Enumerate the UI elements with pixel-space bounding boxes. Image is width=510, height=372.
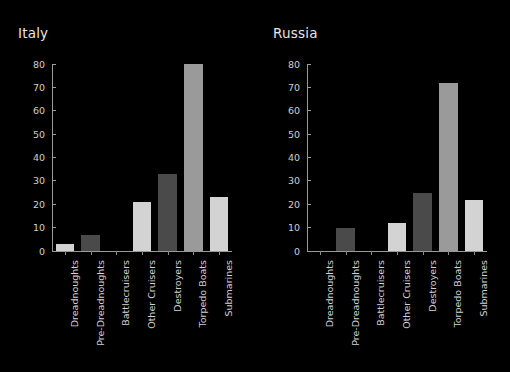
bar	[388, 223, 407, 251]
x-tick-mark	[423, 251, 424, 255]
figure-canvas: Italy 01020304050607080 DreadnoughtsPre-…	[0, 0, 510, 372]
x-tick-mark	[371, 251, 372, 255]
panel-title-russia: Russia	[273, 25, 318, 41]
y-tick-label: 10	[288, 222, 307, 233]
x-tick-label: Dreadnoughts	[69, 260, 80, 327]
bar-series-russia	[307, 64, 487, 251]
y-tick-label: 80	[33, 58, 52, 69]
y-tick-label: 70	[288, 81, 307, 92]
y-tick-label: 30	[288, 175, 307, 186]
x-tick-label: Battlecruisers	[375, 260, 386, 326]
x-tick-mark	[168, 251, 169, 255]
bar	[413, 193, 432, 251]
y-tick-label: 10	[33, 222, 52, 233]
y-tick-label: 60	[33, 105, 52, 116]
x-tick-mark	[219, 251, 220, 255]
bar	[158, 174, 177, 251]
y-tick-label: 0	[294, 245, 307, 256]
panel-title-italy: Italy	[18, 25, 48, 41]
x-tick-mark	[91, 251, 92, 255]
y-tick-label: 80	[288, 58, 307, 69]
y-tick-label: 60	[288, 105, 307, 116]
x-tick-mark	[116, 251, 117, 255]
x-tick-label: Battlecruisers	[120, 260, 131, 326]
bar	[336, 228, 355, 251]
x-tick-label: Submarines	[478, 260, 489, 317]
plot-area-italy: 01020304050607080 DreadnoughtsPre-Dreadn…	[52, 64, 232, 251]
bar	[81, 235, 100, 251]
y-tick-label: 50	[33, 128, 52, 139]
y-tick-label: 20	[288, 198, 307, 209]
x-tick-label: Dreadnoughts	[324, 260, 335, 327]
bar	[56, 244, 75, 251]
x-tick-mark	[320, 251, 321, 255]
chart-panel-italy: Italy 01020304050607080 DreadnoughtsPre-…	[0, 0, 255, 372]
y-tick-label: 50	[288, 128, 307, 139]
y-tick-label: 20	[33, 198, 52, 209]
bar	[184, 64, 203, 251]
chart-panel-russia: Russia 01020304050607080 DreadnoughtsPre…	[255, 0, 510, 372]
x-tick-label: Submarines	[223, 260, 234, 317]
x-tick-mark	[346, 251, 347, 255]
x-tick-mark	[448, 251, 449, 255]
x-tick-mark	[65, 251, 66, 255]
x-tick-mark	[193, 251, 194, 255]
x-tick-mark	[397, 251, 398, 255]
y-tick-label: 30	[33, 175, 52, 186]
x-tick-label: Pre-Dreadnoughts	[95, 260, 106, 346]
y-tick-label: 40	[33, 152, 52, 163]
x-tick-label: Other Cruisers	[401, 260, 412, 329]
x-tick-label: Other Cruisers	[146, 260, 157, 329]
y-tick-label: 70	[33, 81, 52, 92]
bar	[210, 197, 229, 251]
x-tick-label: Destroyers	[172, 260, 183, 312]
bar	[465, 200, 484, 251]
x-tick-label: Destroyers	[427, 260, 438, 312]
x-tick-label: Torpedo Boats	[452, 260, 463, 327]
x-tick-mark	[474, 251, 475, 255]
bar	[439, 83, 458, 251]
bar	[133, 202, 152, 251]
y-tick-label: 0	[39, 245, 52, 256]
bar-series-italy	[52, 64, 232, 251]
x-tick-label: Pre-Dreadnoughts	[350, 260, 361, 346]
plot-area-russia: 01020304050607080 DreadnoughtsPre-Dreadn…	[307, 64, 487, 251]
x-tick-mark	[142, 251, 143, 255]
x-tick-label: Torpedo Boats	[197, 260, 208, 327]
y-tick-label: 40	[288, 152, 307, 163]
